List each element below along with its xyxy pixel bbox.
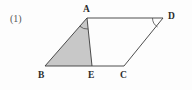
geometry-figure: (1) A D B E C	[0, 0, 192, 90]
figure-canvas	[0, 0, 192, 90]
shaded-triangle-abe	[45, 18, 92, 66]
vertex-label-d: D	[168, 12, 175, 22]
edge-DC	[124, 18, 163, 66]
vertex-label-c: C	[120, 71, 127, 81]
vertex-label-b: B	[38, 71, 44, 81]
vertex-label-a: A	[83, 5, 90, 15]
vertex-label-e: E	[88, 71, 94, 81]
